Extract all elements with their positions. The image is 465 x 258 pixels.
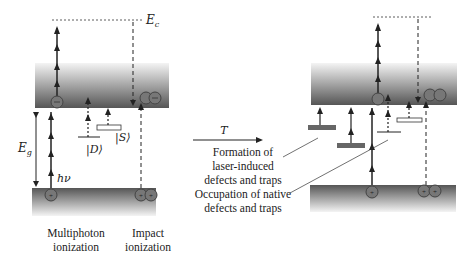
eg-label: Eg bbox=[17, 141, 32, 157]
caption-line: Formation of bbox=[188, 145, 298, 159]
s-state-level bbox=[97, 125, 121, 130]
right-panel: + + + bbox=[283, 17, 457, 212]
caption-line: defects and traps bbox=[184, 201, 302, 215]
svg-text:+: + bbox=[370, 189, 374, 197]
s-state-label: |S⟩ bbox=[115, 131, 131, 145]
caption-line: defects and traps bbox=[188, 173, 298, 187]
svg-text:+: + bbox=[422, 188, 426, 196]
formation-caption: Formation of laser-induced defects and t… bbox=[188, 145, 298, 187]
caption-line: Impact bbox=[118, 226, 178, 240]
t-label: T bbox=[220, 124, 229, 137]
caption-line: ionization bbox=[33, 240, 119, 254]
svg-text:+: + bbox=[433, 188, 437, 196]
svg-text:+: + bbox=[149, 192, 153, 200]
laser-induced-trap-1 bbox=[308, 125, 336, 130]
impact-caption: Impact ionization bbox=[118, 226, 178, 254]
caption-line: Occupation of native bbox=[184, 187, 302, 201]
temperature-transition: T bbox=[193, 124, 263, 143]
laser-induced-trap-2 bbox=[337, 143, 365, 148]
caption-line: Multiphoton bbox=[33, 226, 119, 240]
ec-label: Ec bbox=[145, 13, 160, 29]
left-panel: + + + Ec Eg hν |D⟩ |S⟩ bbox=[17, 13, 169, 216]
multiphoton-caption: Multiphoton ionization bbox=[33, 226, 119, 254]
occupation-caption: Occupation of native defects and traps bbox=[184, 187, 302, 215]
d-state-label: |D⟩ bbox=[86, 143, 103, 157]
caption-line: laser-induced bbox=[188, 159, 298, 173]
hv-label: hν bbox=[57, 172, 71, 185]
svg-text:+: + bbox=[49, 192, 53, 200]
caption-line: ionization bbox=[118, 240, 178, 254]
svg-text:+: + bbox=[139, 192, 143, 200]
band-diagram: + + + Ec Eg hν |D⟩ |S⟩ T bbox=[0, 0, 465, 258]
